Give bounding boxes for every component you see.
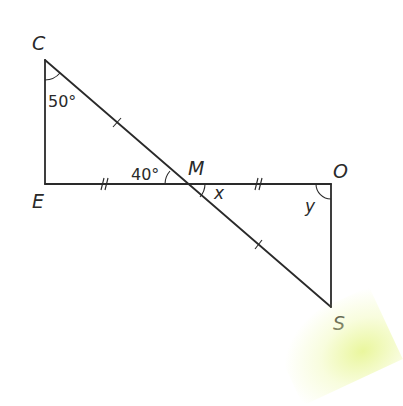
- angle-arc-EMC: [165, 171, 170, 184]
- angle-label-x: x: [213, 183, 225, 203]
- angle-arc-O: [316, 184, 331, 199]
- vertex-label-E: E: [32, 190, 44, 212]
- angle-arc-C: [45, 73, 60, 80]
- vertex-label-C: C: [32, 32, 46, 54]
- angle-label-EMC: 40°: [131, 165, 159, 184]
- vertex-label-O: O: [333, 160, 348, 182]
- angle-label-C: 50°: [48, 92, 76, 111]
- angle-label-y: y: [304, 196, 316, 216]
- vertex-label-M: M: [188, 157, 204, 179]
